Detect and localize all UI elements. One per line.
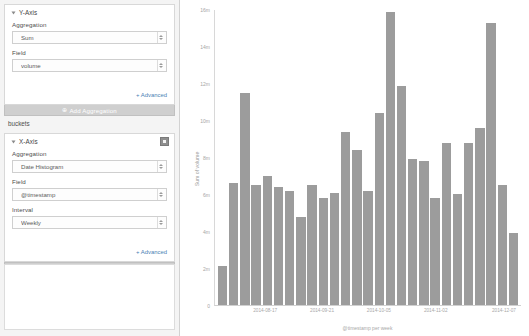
remove-x-axis-button[interactable]	[160, 137, 169, 146]
x-axis-label: @timestamp per week	[214, 325, 521, 331]
bar[interactable]	[263, 176, 272, 305]
bar[interactable]	[341, 132, 350, 305]
bar-chart: Sum of volume 16m14m12m10m8m6m4m2m0 2014…	[184, 6, 523, 332]
y-axis-advanced-row: + Advanced	[5, 83, 174, 104]
bar[interactable]	[307, 185, 316, 305]
y-axis-field-select[interactable]: volume	[12, 59, 167, 72]
chevron-updown-icon[interactable]	[157, 161, 164, 172]
y-axis-tick-label: 4m	[203, 229, 210, 235]
bar[interactable]	[419, 161, 428, 305]
y-axis-tick-label: 6m	[203, 192, 210, 198]
x-axis-tick-label: 2014-11-02	[424, 308, 448, 313]
x-axis-aggregation-card: X-Axis Aggregation Date Histogram Field …	[4, 133, 175, 262]
y-axis-tick-label: 12m	[200, 81, 210, 87]
bar[interactable]	[498, 185, 507, 305]
y-axis-field-value: volume	[21, 62, 157, 69]
chevron-updown-icon[interactable]	[157, 60, 164, 71]
x-axis-interval-value: Weekly	[21, 219, 157, 226]
y-axis-aggregation-label: Aggregation	[12, 21, 167, 28]
y-axis-tick-label: 2m	[203, 266, 210, 272]
x-axis-tick-label: 2014-10-05	[367, 308, 391, 313]
x-axis-tick-label: 2014-08-17	[253, 308, 277, 313]
bar[interactable]	[251, 185, 260, 305]
add-aggregation-button[interactable]: ⊕ Add Aggregation	[4, 105, 175, 116]
y-axis-tick-label: 10m	[200, 118, 210, 124]
bar[interactable]	[229, 183, 238, 305]
bar[interactable]	[464, 143, 473, 305]
x-axis-advanced-row: + Advanced	[5, 240, 174, 261]
y-axis-tick-label: 8m	[203, 155, 210, 161]
bar[interactable]	[330, 193, 339, 305]
chevron-down-icon[interactable]	[12, 140, 16, 143]
plus-circle-icon: ⊕	[62, 107, 67, 113]
x-axis-interval-label: Interval	[12, 206, 167, 213]
bar[interactable]	[442, 143, 451, 305]
x-axis-ticks: 2014-08-172014-09-212014-10-052014-11-02…	[214, 308, 521, 320]
x-axis-card-body: Aggregation Date Histogram Field @timest…	[5, 150, 174, 240]
plot-area	[214, 10, 521, 306]
y-axis-aggregation-select[interactable]: Sum	[12, 31, 167, 44]
y-axis-aggregation-card: Y-Axis Aggregation Sum Field volume + Ad…	[4, 4, 175, 105]
x-axis-aggregation-label: Aggregation	[12, 150, 167, 157]
bar[interactable]	[397, 86, 406, 305]
y-axis-card-body: Aggregation Sum Field volume	[5, 21, 174, 83]
bar[interactable]	[218, 266, 227, 305]
chevron-updown-icon[interactable]	[157, 32, 164, 43]
chevron-updown-icon[interactable]	[157, 217, 164, 228]
bar[interactable]	[430, 198, 439, 305]
x-axis-field-label: Field	[12, 178, 167, 185]
editor-footer-area	[4, 264, 175, 330]
chart-panel: Sum of volume 16m14m12m10m8m6m4m2m0 2014…	[180, 0, 529, 336]
chevron-updown-icon[interactable]	[157, 189, 164, 200]
y-axis-advanced-link[interactable]: + Advanced	[136, 92, 167, 98]
x-axis-aggregation-select[interactable]: Date Histogram	[12, 160, 167, 173]
chevron-down-icon[interactable]	[12, 11, 16, 14]
y-axis-tick-label: 0	[207, 303, 210, 309]
x-axis-field-value: @timestamp	[21, 191, 157, 198]
bar[interactable]	[486, 23, 495, 305]
bar[interactable]	[285, 191, 294, 305]
y-axis-card-header[interactable]: Y-Axis	[5, 5, 174, 19]
bar[interactable]	[240, 93, 249, 305]
bar[interactable]	[386, 12, 395, 305]
x-axis-advanced-link[interactable]: + Advanced	[136, 249, 167, 255]
x-axis-title: X-Axis	[19, 138, 38, 145]
bar[interactable]	[352, 150, 361, 305]
aggregation-editor-panel: Y-Axis Aggregation Sum Field volume + Ad…	[0, 0, 180, 336]
bar[interactable]	[509, 233, 518, 305]
x-axis-interval-select[interactable]: Weekly	[12, 216, 167, 229]
x-axis-aggregation-value: Date Histogram	[21, 163, 157, 170]
y-axis-ticks: 16m14m12m10m8m6m4m2m0	[192, 10, 212, 306]
x-axis-field-select[interactable]: @timestamp	[12, 188, 167, 201]
x-axis-tick-label: 2014-09-21	[310, 308, 334, 313]
bar[interactable]	[319, 198, 328, 305]
bar[interactable]	[296, 217, 305, 306]
y-axis-tick-label: 16m	[200, 7, 210, 13]
y-axis-field-label: Field	[12, 49, 167, 56]
bar[interactable]	[408, 159, 417, 305]
bar[interactable]	[363, 191, 372, 305]
x-axis-card-header[interactable]: X-Axis	[5, 134, 174, 148]
y-axis-tick-label: 14m	[200, 44, 210, 50]
add-aggregation-label: Add Aggregation	[69, 107, 116, 114]
bar[interactable]	[453, 194, 462, 305]
x-axis-tick-label: 2014-12-07	[492, 308, 516, 313]
visualization-editor-app: Y-Axis Aggregation Sum Field volume + Ad…	[0, 0, 529, 336]
y-axis-title: Y-Axis	[19, 9, 37, 16]
bar[interactable]	[274, 187, 283, 305]
y-axis-aggregation-value: Sum	[21, 34, 157, 41]
bar-series	[217, 10, 519, 305]
bar[interactable]	[475, 128, 484, 305]
buckets-section-label: buckets	[0, 116, 179, 129]
bar[interactable]	[375, 113, 384, 305]
